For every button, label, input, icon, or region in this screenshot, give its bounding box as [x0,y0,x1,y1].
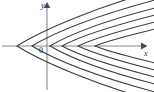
origin-label: 0 [39,47,43,55]
x-axis-label: x [144,50,148,58]
y-axis-label: y [41,2,45,10]
axes-group [2,2,148,90]
figure-canvas [0,0,154,92]
parabola-family-figure: y x 0 [0,0,154,92]
